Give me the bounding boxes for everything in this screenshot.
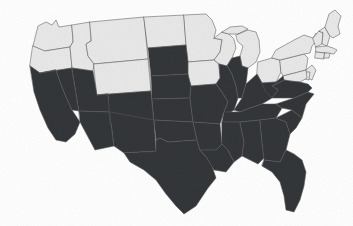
- state-north-dakota[interactable]: [144, 15, 186, 48]
- state-south-dakota[interactable]: [148, 45, 188, 76]
- state-new-york[interactable]: [272, 33, 320, 60]
- state-montana[interactable]: [86, 17, 148, 64]
- state-rhode-island[interactable]: [324, 53, 330, 58]
- state-arizona[interactable]: [79, 111, 114, 150]
- state-ohio[interactable]: [257, 58, 281, 83]
- state-vermont[interactable]: [313, 31, 323, 47]
- map-states-layer: [30, 10, 341, 214]
- state-iowa[interactable]: [188, 60, 220, 86]
- us-choropleth-map: [0, 0, 353, 226]
- state-kansas[interactable]: [152, 98, 193, 122]
- state-nebraska[interactable]: [151, 74, 191, 99]
- state-washington[interactable]: [33, 20, 73, 51]
- state-connecticut[interactable]: [315, 52, 325, 59]
- state-wyoming[interactable]: [94, 59, 151, 95]
- us-map-svg: [0, 0, 353, 226]
